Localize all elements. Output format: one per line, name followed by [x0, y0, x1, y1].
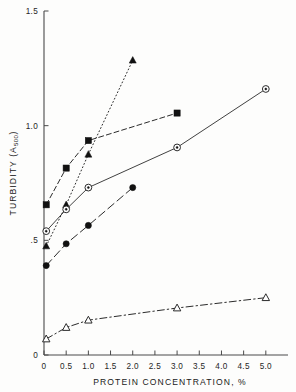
marker-circle-open-center: [65, 208, 67, 210]
x-tick-label: 0: [42, 362, 47, 371]
x-tick-label: 5.0: [260, 362, 272, 371]
series-line: [46, 113, 177, 205]
x-tick-label: 2.5: [149, 362, 161, 371]
x-tick-label: 3.5: [193, 362, 205, 371]
data-point-marker: [43, 262, 49, 268]
y-tick-label: 0: [33, 351, 38, 360]
data-point-marker: [85, 151, 92, 158]
series-line: [46, 89, 266, 231]
axes: 0.51.01.500.51.01.52.02.53.03.54.04.55.0: [26, 7, 288, 371]
turbidity-vs-protein-chart: 0.51.01.500.51.01.52.02.53.03.54.04.55.0…: [0, 0, 296, 392]
data-series-group: [43, 57, 270, 342]
data-point-marker: [63, 165, 69, 171]
marker-circle-open-center: [45, 230, 47, 232]
x-tick-label: 0.5: [60, 362, 72, 371]
chart-canvas: 0.51.01.500.51.01.52.02.53.03.54.04.55.0…: [0, 0, 296, 392]
data-point-marker: [174, 110, 180, 116]
series-line: [46, 298, 266, 339]
data-point-marker: [173, 304, 180, 311]
x-tick-label: 2.0: [127, 362, 139, 371]
data-point-marker: [43, 202, 49, 208]
data-point-marker: [85, 137, 91, 143]
marker-circle-open-center: [87, 187, 89, 189]
x-tick-label: 4.5: [237, 362, 249, 371]
data-point-marker: [130, 184, 136, 190]
y-axis-title: TURBIDITY (A500): [8, 131, 19, 216]
x-axis-title: PROTEIN CONCENTRATION, %: [93, 377, 247, 387]
x-tick-label: 1.0: [82, 362, 94, 371]
series-filled-circle-longdash: [43, 184, 136, 268]
x-tick-label: 1.5: [104, 362, 116, 371]
data-point-marker: [262, 294, 269, 301]
data-point-marker: [85, 222, 91, 228]
marker-circle-open-center: [265, 88, 267, 90]
y-tick-label: 1.5: [26, 7, 38, 16]
x-tick-label: 4.0: [215, 362, 227, 371]
y-tick-label: 1.0: [26, 122, 38, 131]
series-open-triangle-dashdot: [43, 294, 270, 342]
marker-circle-open-center: [176, 146, 178, 148]
data-point-marker: [63, 241, 69, 247]
series-open-circle-solid: [43, 86, 269, 235]
x-tick-label: 3.0: [171, 362, 183, 371]
y-tick-label: .5: [31, 236, 39, 245]
data-point-marker: [129, 57, 136, 64]
series-filled-square-dashed: [43, 110, 180, 208]
